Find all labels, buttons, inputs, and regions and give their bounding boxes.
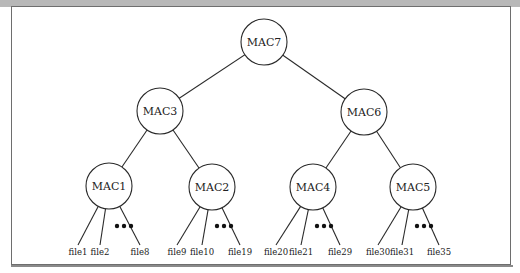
ellipsis-icon xyxy=(315,224,333,228)
ellipsis-icon xyxy=(115,224,133,228)
node-label: MAC1 xyxy=(92,180,127,193)
leaf-edge xyxy=(78,206,98,245)
node-mac4: MAC4 xyxy=(290,164,336,210)
leaf-edge xyxy=(202,210,208,245)
leaf-label-file20: file20 xyxy=(264,247,288,257)
leaf-label-file29: file29 xyxy=(328,247,352,257)
ellipsis-markers xyxy=(115,224,433,228)
leaf-edge xyxy=(177,207,200,245)
node-label: MAC6 xyxy=(347,106,382,119)
node-mac2: MAC2 xyxy=(189,164,235,210)
node-label: MAC7 xyxy=(247,36,282,49)
leaf-label-file8: file8 xyxy=(131,247,150,257)
node-label: MAC2 xyxy=(195,181,230,194)
node-label: MAC3 xyxy=(143,105,178,118)
leaf-edge xyxy=(276,206,301,245)
leaf-label-file30: file30 xyxy=(366,247,390,257)
node-mac6: MAC6 xyxy=(341,89,387,135)
node-mac3: MAC3 xyxy=(137,88,183,134)
tree-nodes: MAC7MAC3MAC6MAC1MAC2MAC4MAC5 xyxy=(86,19,436,210)
leaf-label-file2: file2 xyxy=(91,247,110,257)
leaf-labels: file1file2file8file9file10file19file20fi… xyxy=(69,247,452,257)
leaf-label-file21: file21 xyxy=(289,247,313,257)
leaf-edge xyxy=(378,207,401,245)
node-mac7: MAC7 xyxy=(241,19,287,65)
leaf-label-file31: file31 xyxy=(390,247,414,257)
leaf-edge xyxy=(301,210,308,245)
node-mac5: MAC5 xyxy=(390,164,436,210)
leaf-label-file1: file1 xyxy=(69,247,88,257)
node-mac1: MAC1 xyxy=(86,163,132,209)
ellipsis-icon xyxy=(215,224,233,228)
leaf-label-file10: file10 xyxy=(190,247,214,257)
node-label: MAC5 xyxy=(396,181,431,194)
merkle-tree-diagram: MAC7MAC3MAC6MAC1MAC2MAC4MAC5 file1file2f… xyxy=(0,0,520,273)
leaf-label-file19: file19 xyxy=(228,247,252,257)
node-label: MAC4 xyxy=(296,181,331,194)
leaf-label-file35: file35 xyxy=(427,247,451,257)
leaf-edge xyxy=(100,209,106,245)
leaf-label-file9: file9 xyxy=(168,247,187,257)
ellipsis-icon xyxy=(415,224,433,228)
leaf-edge xyxy=(402,210,409,245)
